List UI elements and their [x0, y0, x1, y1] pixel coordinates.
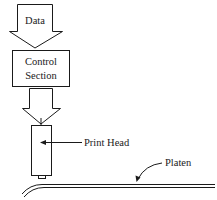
platen-line-top	[22, 185, 215, 195]
platen-label: Platen	[165, 157, 192, 168]
data-arrow	[10, 5, 63, 49]
control-section-label-line1: Control	[25, 56, 57, 67]
control-section-label-line2: Section	[25, 70, 57, 81]
data-label: Data	[25, 15, 45, 26]
print-head-label: Print Head	[84, 137, 130, 148]
platen-leader	[138, 163, 162, 179]
platen-line-bottom	[24, 188, 215, 198]
printer-diagram: Data Control Section Print Head Platen	[0, 0, 217, 200]
print-head-nozzle	[39, 176, 46, 179]
print-head	[32, 126, 52, 176]
